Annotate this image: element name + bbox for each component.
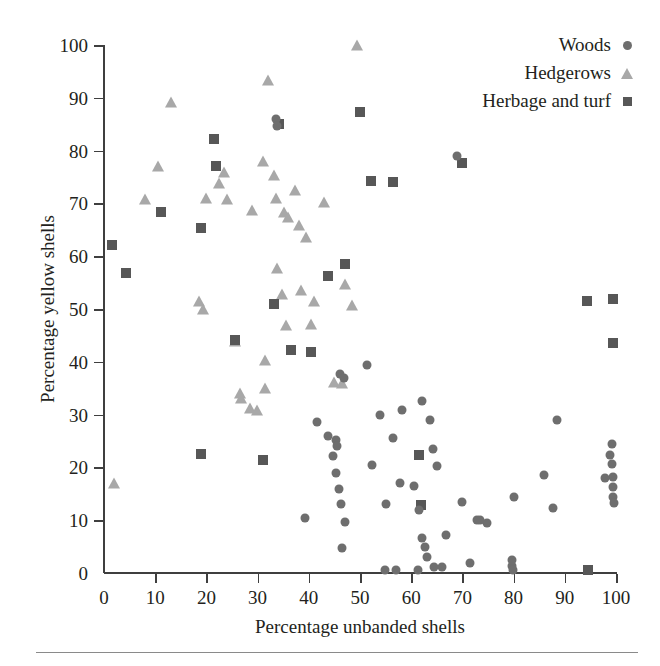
data-point-square bbox=[388, 177, 398, 187]
square-marker bbox=[620, 97, 634, 106]
data-point-triangle bbox=[200, 193, 212, 204]
data-point-circle bbox=[333, 441, 342, 450]
data-point-circle bbox=[418, 396, 427, 405]
data-point-square bbox=[196, 449, 206, 459]
data-point-circle bbox=[553, 416, 562, 425]
data-point-circle bbox=[609, 499, 618, 508]
y-tick-mark bbox=[94, 520, 103, 522]
data-point-triangle bbox=[339, 278, 351, 289]
data-point-circle bbox=[607, 440, 616, 449]
data-point-triangle bbox=[271, 262, 283, 273]
data-point-triangle bbox=[257, 156, 269, 167]
data-point-circle bbox=[422, 552, 431, 561]
data-point-circle bbox=[442, 530, 451, 539]
data-point-triangle bbox=[318, 196, 330, 207]
data-point-triangle bbox=[221, 194, 233, 205]
data-point-circle bbox=[432, 462, 441, 471]
data-point-square bbox=[209, 134, 219, 144]
data-point-triangle bbox=[262, 74, 274, 85]
data-point-triangle bbox=[251, 404, 263, 415]
y-tick-label: 60 bbox=[69, 247, 88, 266]
data-point-circle bbox=[453, 152, 462, 161]
data-point-triangle bbox=[268, 169, 280, 180]
data-point-circle bbox=[465, 558, 474, 567]
data-point-circle bbox=[395, 478, 404, 487]
data-point-circle bbox=[437, 562, 446, 571]
data-point-triangle bbox=[246, 205, 258, 216]
data-point-circle bbox=[323, 432, 332, 441]
data-point-triangle bbox=[308, 296, 320, 307]
data-point-triangle bbox=[108, 478, 120, 489]
data-point-circle bbox=[507, 555, 516, 564]
data-point-square bbox=[583, 565, 593, 575]
legend-label: Hedgerows bbox=[524, 62, 611, 84]
data-point-circle bbox=[409, 482, 418, 491]
y-tick-mark bbox=[94, 415, 103, 417]
y-tick-label: 40 bbox=[69, 352, 88, 371]
data-point-triangle bbox=[139, 193, 151, 204]
x-tick-mark bbox=[258, 574, 260, 583]
circle-glyph bbox=[623, 41, 632, 50]
data-point-circle bbox=[329, 451, 338, 460]
data-point-circle bbox=[606, 450, 615, 459]
data-point-circle bbox=[548, 504, 557, 513]
square-glyph bbox=[623, 97, 632, 106]
data-point-square bbox=[286, 345, 296, 355]
data-point-circle bbox=[273, 122, 282, 131]
x-tick-label: 0 bbox=[99, 588, 109, 607]
data-point-square bbox=[366, 176, 376, 186]
data-point-square bbox=[608, 338, 618, 348]
data-point-square bbox=[107, 240, 117, 250]
legend-item: Hedgerows bbox=[524, 62, 634, 84]
data-point-circle bbox=[418, 534, 427, 543]
data-point-circle bbox=[362, 360, 371, 369]
x-tick-label: 20 bbox=[197, 588, 216, 607]
legend-item: Herbage and turf bbox=[482, 90, 634, 112]
data-point-square bbox=[258, 455, 268, 465]
data-point-square bbox=[355, 107, 365, 117]
data-point-circle bbox=[540, 470, 549, 479]
data-point-square bbox=[340, 259, 350, 269]
x-tick-label: 70 bbox=[453, 588, 472, 607]
data-point-triangle bbox=[293, 219, 305, 230]
x-tick-label: 80 bbox=[504, 588, 523, 607]
data-point-square bbox=[269, 299, 279, 309]
x-tick-mark bbox=[411, 574, 413, 583]
y-tick-label: 90 bbox=[69, 88, 88, 107]
data-point-triangle bbox=[346, 300, 358, 311]
x-tick-mark bbox=[616, 574, 618, 583]
data-point-circle bbox=[600, 474, 609, 483]
x-tick-label: 100 bbox=[602, 588, 631, 607]
data-point-circle bbox=[376, 411, 385, 420]
legend-label: Herbage and turf bbox=[482, 90, 611, 112]
y-tick-mark bbox=[94, 362, 103, 364]
data-point-triangle bbox=[259, 383, 271, 394]
data-point-triangle bbox=[213, 178, 225, 189]
data-point-circle bbox=[391, 565, 400, 574]
data-point-circle bbox=[335, 484, 344, 493]
data-point-circle bbox=[414, 505, 423, 514]
legend-item: Woods bbox=[559, 34, 634, 56]
x-tick-label: 50 bbox=[351, 588, 370, 607]
data-point-circle bbox=[382, 500, 391, 509]
plot-area: 0102030405060708090100 01020304050607080… bbox=[104, 45, 616, 573]
x-tick-label: 30 bbox=[248, 588, 267, 607]
y-tick-label: 10 bbox=[69, 511, 88, 530]
data-point-triangle bbox=[259, 355, 271, 366]
y-tick-mark bbox=[94, 309, 103, 311]
data-point-circle bbox=[389, 433, 398, 442]
data-point-circle bbox=[608, 460, 617, 469]
data-point-triangle bbox=[295, 284, 307, 295]
y-tick-mark bbox=[94, 98, 103, 100]
x-tick-mark bbox=[360, 574, 362, 583]
bottom-rule bbox=[36, 652, 638, 653]
data-point-circle bbox=[420, 543, 429, 552]
y-axis-title: Percentage yellow shells bbox=[30, 45, 66, 573]
data-point-circle bbox=[340, 373, 349, 382]
y-tick-label: 20 bbox=[69, 458, 88, 477]
data-point-circle bbox=[337, 544, 346, 553]
data-point-square bbox=[156, 207, 166, 217]
data-point-circle bbox=[312, 417, 321, 426]
x-axis-title: Percentage unbanded shells bbox=[104, 616, 616, 638]
data-point-circle bbox=[340, 518, 349, 527]
